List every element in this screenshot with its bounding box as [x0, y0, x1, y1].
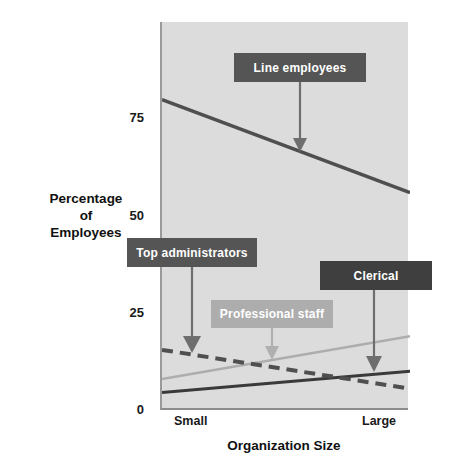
callout-clerical[interactable]: Clerical	[320, 261, 432, 290]
chart-figure: Percentage of Employees 75 50 25 0	[0, 0, 472, 476]
callout-line-employees[interactable]: Line employees	[234, 53, 366, 82]
x-tick-label-small: Small	[174, 414, 207, 428]
x-axis-title: Organization Size	[160, 438, 408, 453]
series-line-line-employees	[162, 100, 410, 193]
y-tick-label-0: 0	[104, 403, 144, 416]
y-axis-title-line-1: Percentage	[28, 190, 144, 207]
callout-top-administrators[interactable]: Top administrators	[127, 238, 257, 267]
y-tick-label-25: 25	[104, 306, 144, 319]
x-tick-label-large: Large	[362, 414, 396, 428]
y-tick-label-50: 50	[104, 209, 144, 222]
y-tick-label-75: 75	[104, 111, 144, 124]
series-line-clerical	[162, 371, 410, 392]
callout-professional-staff[interactable]: Professional staff	[211, 300, 333, 328]
